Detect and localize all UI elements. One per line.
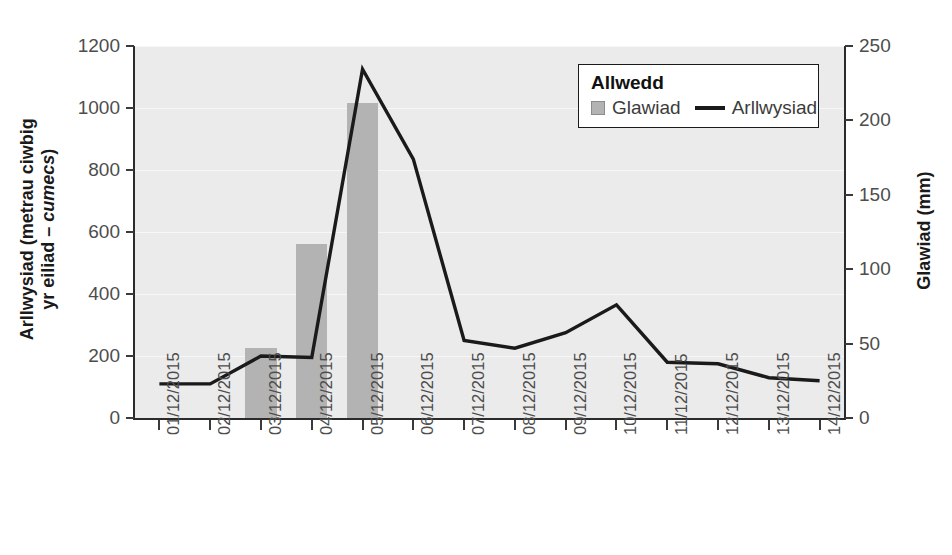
right-tick xyxy=(845,343,853,345)
bottom-tick xyxy=(412,420,414,430)
bottom-tick xyxy=(362,420,364,430)
left-tick-label: 800 xyxy=(88,160,120,179)
date-tick-label: 14/12/2015 xyxy=(826,352,843,435)
right-axis-line xyxy=(844,46,846,419)
gridline xyxy=(134,232,845,233)
date-tick-label: 07/12/2015 xyxy=(470,352,487,435)
bottom-tick xyxy=(209,420,211,430)
date-tick-label: 03/12/2015 xyxy=(267,352,284,435)
bottom-tick xyxy=(514,420,516,430)
left-axis-title-line2-post: ) xyxy=(38,149,58,155)
right-tick-label: 150 xyxy=(859,185,891,204)
left-tick xyxy=(126,45,134,47)
left-axis-title-line1: Arllwysiad (metrau ciwbig xyxy=(17,118,37,340)
left-axis-title: Arllwysiad (metrau ciwbigyr eiliad – cum… xyxy=(17,43,59,415)
date-tick-label: 04/12/2015 xyxy=(318,352,335,435)
date-tick-label: 13/12/2015 xyxy=(775,352,792,435)
left-axis-title-line2-pre: yr eiliad – xyxy=(38,222,58,310)
date-tick-label: 02/12/2015 xyxy=(216,352,233,435)
date-tick-label: 09/12/2015 xyxy=(572,352,589,435)
date-tick-label: 11/12/2015 xyxy=(673,354,690,435)
bottom-tick xyxy=(463,420,465,430)
right-tick-label: 50 xyxy=(859,334,880,353)
left-tick-label: 0 xyxy=(109,408,120,427)
right-tick-label: 100 xyxy=(859,259,891,278)
date-tick-label: 10/12/2015 xyxy=(622,352,639,435)
left-tick-label: 200 xyxy=(88,346,120,365)
left-tick-label: 1000 xyxy=(78,98,120,117)
left-axis-title-line2-italic: cumecs xyxy=(38,155,58,222)
gridline xyxy=(134,294,845,295)
legend-entry-glawiad: Glawiad xyxy=(591,98,681,119)
legend-title: Allwedd xyxy=(591,72,806,94)
bottom-tick xyxy=(311,420,313,430)
left-tick-label: 1200 xyxy=(78,36,120,55)
left-tick xyxy=(126,231,134,233)
left-tick xyxy=(126,169,134,171)
gridline xyxy=(134,170,845,171)
legend-entry-arllwysiad: Arllwysiad xyxy=(695,98,818,119)
right-tick-label: 200 xyxy=(859,110,891,129)
right-tick xyxy=(845,45,853,47)
right-tick xyxy=(845,268,853,270)
left-tick-label: 600 xyxy=(88,222,120,241)
right-tick xyxy=(845,194,853,196)
legend-label-arllwysiad: Arllwysiad xyxy=(732,98,818,119)
bottom-tick xyxy=(565,420,567,430)
left-tick xyxy=(126,355,134,357)
bottom-tick xyxy=(819,420,821,430)
right-tick-label: 0 xyxy=(859,408,870,427)
bottom-tick xyxy=(666,420,668,430)
bottom-tick xyxy=(717,420,719,430)
date-tick-label: 06/12/2015 xyxy=(419,352,436,435)
bottom-tick xyxy=(158,420,160,430)
line-swatch-icon xyxy=(695,106,725,110)
right-tick xyxy=(845,119,853,121)
left-tick xyxy=(126,417,134,419)
date-tick-label: 12/12/2015 xyxy=(724,352,741,435)
bottom-tick xyxy=(260,420,262,430)
box-swatch-icon xyxy=(591,101,605,115)
date-tick-label: 05/12/2015 xyxy=(369,352,386,435)
bottom-tick xyxy=(615,420,617,430)
left-tick xyxy=(126,107,134,109)
right-tick-label: 250 xyxy=(859,36,891,55)
legend-entries: Glawiad Arllwysiad xyxy=(591,98,806,119)
date-tick-label: 08/12/2015 xyxy=(521,352,538,435)
right-tick xyxy=(845,417,853,419)
bottom-tick xyxy=(768,420,770,430)
gridline xyxy=(134,46,845,47)
left-tick xyxy=(126,293,134,295)
legend-box: Allwedd Glawiad Arllwysiad xyxy=(578,64,819,128)
right-axis-title: Glawiad (mm) xyxy=(914,45,935,417)
date-tick-label: 01/12/2015 xyxy=(165,352,182,435)
hydrograph-chart: 120010008006004002000 250200150100500 01… xyxy=(0,0,952,555)
left-tick-label: 400 xyxy=(88,284,120,303)
legend-label-glawiad: Glawiad xyxy=(612,98,681,119)
